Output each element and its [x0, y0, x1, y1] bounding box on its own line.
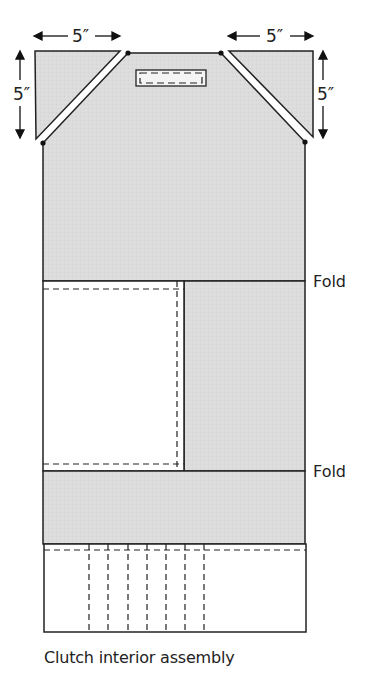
closure-tab-slot: [136, 70, 206, 86]
dim-label: 5″: [72, 26, 89, 46]
dim-label: 5″: [13, 84, 30, 104]
dim-label: 5″: [266, 26, 283, 46]
diagram-caption: Clutch interior assembly: [44, 648, 234, 667]
clutch-interior-diagram: 5″ 5″ 5″ 5″ Fold Fold: [0, 0, 375, 691]
fold-label: Fold: [313, 462, 346, 481]
corner-dot: [218, 50, 223, 55]
corner-dot: [125, 50, 130, 55]
corner-dot: [40, 140, 45, 145]
fold-label: Fold: [313, 272, 346, 291]
corner-dot: [302, 139, 307, 144]
middle-right-panel: [184, 281, 305, 471]
dim-label: 5″: [317, 84, 334, 104]
slot-pocket-panel: [44, 544, 306, 632]
pocket-panel: [43, 281, 184, 471]
lower-band-panel: [43, 471, 305, 544]
